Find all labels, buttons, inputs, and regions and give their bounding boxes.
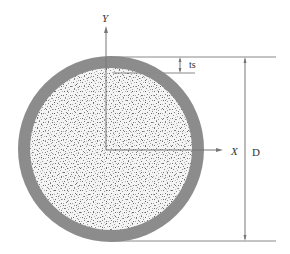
tube-core-texture bbox=[30, 68, 192, 230]
x-axis-arrow-icon bbox=[216, 148, 223, 152]
d-arrow-down-icon bbox=[244, 235, 247, 241]
ts-arrow-up-icon bbox=[179, 57, 182, 62]
x-axis-label: X bbox=[230, 145, 239, 157]
tube-cross-section-diagram: Y X ts D bbox=[0, 0, 290, 254]
thickness-label: ts bbox=[189, 59, 196, 70]
y-axis-label: Y bbox=[102, 12, 110, 24]
ts-arrow-down-icon bbox=[179, 68, 182, 73]
thickness-dimension bbox=[179, 57, 182, 73]
y-axis-arrow-icon bbox=[104, 26, 108, 33]
diameter-dimension bbox=[244, 57, 247, 241]
diameter-label: D bbox=[252, 146, 260, 158]
d-arrow-up-icon bbox=[244, 57, 247, 63]
